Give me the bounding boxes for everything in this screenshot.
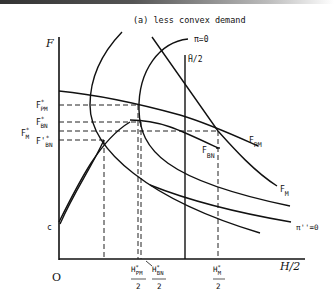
origin-label: O <box>52 271 61 284</box>
fm-label: FM <box>280 185 289 198</box>
pi-double-prime-tail <box>150 185 291 222</box>
y-axis-label: F <box>45 37 54 50</box>
svg-text:2: 2 <box>216 282 221 291</box>
svg-text:H*M: H*M <box>213 264 222 276</box>
fbn-label: FBN <box>202 146 215 160</box>
economics-figure: (a) less convex demand F H/2 O c F*PM F* <box>0 0 334 307</box>
svg-text:F*PM: F*PM <box>36 98 48 112</box>
svg-text:2: 2 <box>157 282 162 291</box>
svg-text:H*PM: H*PM <box>131 264 143 276</box>
hbar-label: H̄/2 <box>188 54 203 64</box>
curve-labels: π=0 H̄/2 FPM FBN FM π''=0 <box>188 35 319 232</box>
pi-zero-curve <box>139 39 290 206</box>
svg-text:F'*BN: F'*BN <box>36 134 53 148</box>
figure-title: (a) less convex demand <box>133 15 246 25</box>
svg-text:F*M: F*M <box>21 126 30 140</box>
c-label: c <box>47 223 52 232</box>
x-axis-label: H/2 <box>279 260 300 273</box>
y-tick-labels: F*PM F*BN F*M F'*BN <box>21 98 53 148</box>
dashed-guides <box>59 105 218 259</box>
x-tick-labels: H*PM 2 H*BN 2 H*M 2 <box>131 264 225 291</box>
fbn-prime-curve <box>59 122 130 222</box>
straight-line-to-fm <box>152 37 277 186</box>
pi-zero-label: π=0 <box>194 35 209 44</box>
pi-double-prime-curve <box>60 140 104 224</box>
fpm-label: FPM <box>249 136 262 149</box>
pi-double-prime-label: π''=0 <box>296 223 319 232</box>
svg-text:F*BN: F*BN <box>36 115 48 129</box>
svg-text:H*BN: H*BN <box>152 264 163 276</box>
fpm-curve <box>59 91 258 146</box>
svg-text:2: 2 <box>136 282 141 291</box>
